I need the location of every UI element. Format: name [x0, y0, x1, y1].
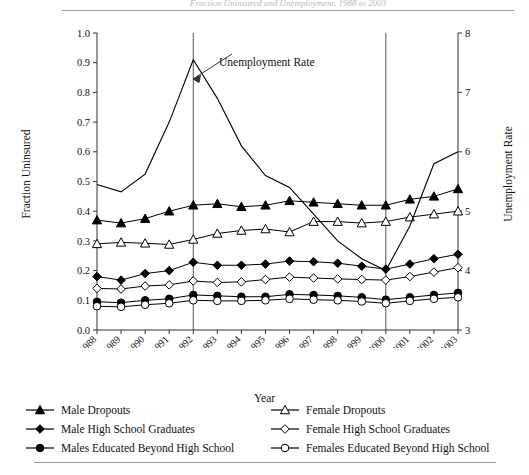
- figure-container: Fraction Uninsured and Unemployment, 198…: [0, 0, 529, 475]
- open-diamond-marker: [269, 422, 301, 436]
- x-axis: 1988198919901991199219931994199519961997…: [76, 330, 459, 348]
- svg-text:0.3: 0.3: [77, 236, 90, 247]
- series-unemployment-rate: [97, 60, 458, 271]
- y-axis-left-title: Fraction Uninsured: [20, 114, 32, 234]
- filled-triangle-marker: [24, 403, 56, 417]
- svg-text:1998: 1998: [317, 334, 339, 348]
- vertical-reference-lines: [193, 33, 386, 330]
- filled-triangle-marker: [24, 403, 56, 417]
- svg-text:0.8: 0.8: [77, 87, 90, 98]
- svg-text:1991: 1991: [149, 334, 171, 348]
- legend-item-female-2[interactable]: Females Educated Beyond High School: [269, 438, 519, 457]
- svg-text:1988: 1988: [76, 334, 98, 348]
- legend-item-male-0[interactable]: Male Dropouts: [24, 400, 274, 419]
- data-series-group: [92, 60, 462, 311]
- svg-text:2003: 2003: [437, 334, 459, 348]
- svg-text:1993: 1993: [197, 334, 219, 348]
- series-female-dropouts: [92, 207, 462, 249]
- chart-legend: Male DropoutsMale High School GraduatesM…: [24, 400, 524, 458]
- legend-label: Female High School Graduates: [306, 422, 450, 436]
- open-triangle-marker: [269, 403, 301, 417]
- svg-text:1994: 1994: [221, 334, 243, 348]
- top-divider-rule: [62, 10, 514, 11]
- svg-text:0.9: 0.9: [77, 57, 90, 68]
- svg-text:1.0: 1.0: [77, 28, 90, 39]
- figure-title-clipped: Fraction Uninsured and Unemployment, 198…: [62, 0, 514, 9]
- svg-text:0.6: 0.6: [77, 146, 90, 157]
- svg-text:8: 8: [465, 28, 470, 39]
- legend-item-male-2[interactable]: Males Educated Beyond High School: [24, 438, 274, 457]
- svg-text:1990: 1990: [125, 334, 147, 348]
- filled-diamond-marker: [24, 422, 56, 436]
- legend-label: Female Dropouts: [306, 403, 386, 417]
- legend-label: Male High School Graduates: [61, 422, 195, 436]
- svg-text:6: 6: [465, 146, 470, 157]
- plot-area: 0.00.10.20.30.40.50.60.70.80.91.0 345678…: [0, 18, 529, 348]
- legend-item-female-1[interactable]: Female High School Graduates: [269, 419, 519, 438]
- filled-circle-marker: [24, 441, 56, 455]
- filled-diamond-marker: [24, 422, 56, 436]
- svg-text:1999: 1999: [341, 334, 363, 348]
- series-female-high-school-graduates: [93, 263, 463, 293]
- svg-text:7: 7: [465, 87, 470, 98]
- svg-text:0.4: 0.4: [77, 206, 91, 217]
- svg-text:2001: 2001: [389, 334, 411, 348]
- svg-text:3: 3: [465, 325, 470, 336]
- svg-text:1989: 1989: [101, 334, 123, 348]
- svg-text:2000: 2000: [365, 334, 387, 348]
- svg-text:5: 5: [465, 206, 470, 217]
- open-circle-marker: [269, 441, 301, 455]
- svg-text:2002: 2002: [413, 334, 435, 348]
- bottom-divider-rule: [34, 462, 496, 463]
- svg-text:0.1: 0.1: [77, 295, 90, 306]
- legend-item-female-0[interactable]: Female Dropouts: [269, 400, 519, 419]
- svg-text:4: 4: [465, 265, 471, 276]
- svg-text:0.2: 0.2: [77, 265, 90, 276]
- legend-label: Females Educated Beyond High School: [306, 441, 489, 455]
- svg-text:0.0: 0.0: [77, 325, 90, 336]
- series-male-high-school-graduates: [93, 250, 463, 284]
- svg-text:1992: 1992: [173, 334, 195, 348]
- legend-column-female: Female DropoutsFemale High School Gradua…: [269, 400, 519, 457]
- open-diamond-marker: [269, 422, 301, 436]
- legend-item-male-1[interactable]: Male High School Graduates: [24, 419, 274, 438]
- unemployment-rate-annotation: Unemployment Rate: [219, 56, 315, 68]
- open-triangle-marker: [269, 403, 301, 417]
- legend-column-male: Male DropoutsMale High School GraduatesM…: [24, 400, 274, 457]
- svg-text:1995: 1995: [245, 334, 267, 348]
- svg-text:1997: 1997: [293, 334, 315, 348]
- svg-text:0.7: 0.7: [77, 117, 90, 128]
- y-axis-right-title: Unemployment Rate: [502, 109, 514, 239]
- svg-text:0.5: 0.5: [77, 176, 90, 187]
- legend-label: Males Educated Beyond High School: [61, 441, 234, 455]
- svg-text:1996: 1996: [269, 334, 291, 348]
- open-circle-marker: [269, 441, 301, 455]
- legend-label: Male Dropouts: [61, 403, 130, 417]
- filled-circle-marker: [24, 441, 56, 455]
